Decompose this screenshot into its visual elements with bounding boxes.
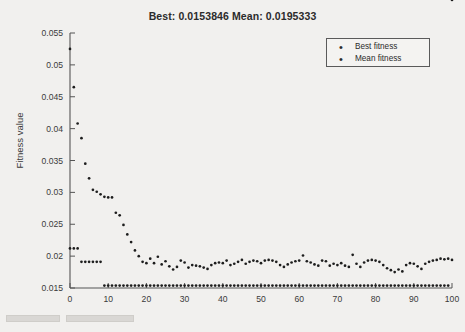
svg-text:100: 100	[445, 294, 460, 304]
legend: • Best fitness • Mean fitness	[326, 38, 430, 67]
svg-text:30: 30	[180, 294, 190, 304]
series-mean-fitness-points	[69, 48, 454, 274]
svg-text:0.04: 0.04	[46, 124, 63, 134]
svg-text:50: 50	[256, 294, 266, 304]
svg-text:80: 80	[371, 294, 381, 304]
svg-text:60: 60	[294, 294, 304, 304]
svg-text:0.02: 0.02	[46, 251, 63, 261]
legend-marker-icon: •	[327, 43, 355, 51]
horizontal-scrollbar-left[interactable]	[6, 315, 60, 322]
legend-marker-icon: •	[327, 55, 355, 63]
svg-text:0.025: 0.025	[41, 219, 63, 229]
svg-text:0.05: 0.05	[46, 60, 63, 70]
svg-text:70: 70	[333, 294, 343, 304]
axis-lines	[70, 33, 452, 288]
legend-label-best-fitness: Best fitness	[355, 42, 397, 51]
figure-canvas: Best: 0.0153846 Mean: 0.0195333 Fitness …	[0, 0, 465, 332]
svg-text:0.015: 0.015	[41, 283, 63, 293]
svg-text:90: 90	[409, 294, 419, 304]
legend-label-mean-fitness: Mean fitness	[355, 54, 401, 63]
svg-text:40: 40	[218, 294, 228, 304]
legend-entry-mean-fitness: • Mean fitness	[327, 52, 429, 65]
svg-text:10: 10	[103, 294, 113, 304]
svg-text:20: 20	[142, 294, 152, 304]
horizontal-scrollbar-right[interactable]	[66, 315, 134, 322]
svg-text:0.045: 0.045	[41, 92, 63, 102]
svg-text:0: 0	[68, 294, 73, 304]
svg-text:0.055: 0.055	[41, 28, 63, 38]
svg-text:0.03: 0.03	[46, 187, 63, 197]
svg-text:0.035: 0.035	[41, 156, 63, 166]
